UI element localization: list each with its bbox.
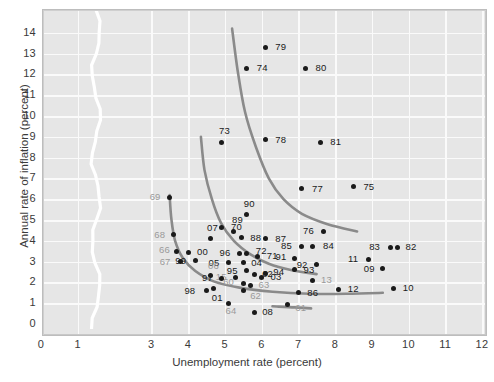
data-point-label: 62 bbox=[250, 291, 261, 301]
data-point-label: 68 bbox=[154, 230, 165, 240]
data-point-label: 73 bbox=[219, 126, 230, 136]
data-point-label: 77 bbox=[312, 184, 323, 194]
data-point bbox=[252, 310, 257, 315]
data-point-label: 09 bbox=[364, 264, 375, 274]
data-point-label: 00 bbox=[197, 247, 208, 257]
data-point bbox=[395, 245, 400, 250]
data-point-label: 12 bbox=[348, 284, 359, 294]
data-point-label: 69 bbox=[150, 192, 161, 202]
data-point-label: 97 bbox=[202, 273, 213, 283]
data-point-label: 88 bbox=[250, 233, 261, 243]
data-point-label: 82 bbox=[405, 242, 416, 252]
x-axis-title: Unemployment rate (percent) bbox=[0, 356, 494, 368]
data-point-label: 66 bbox=[159, 245, 170, 255]
data-point-label: 84 bbox=[323, 241, 334, 251]
x-tick-label: 10 bbox=[397, 338, 421, 350]
data-point-label: 81 bbox=[330, 137, 341, 147]
data-point bbox=[248, 283, 253, 288]
data-point-label: 01 bbox=[212, 293, 223, 303]
data-point bbox=[241, 260, 246, 265]
data-point bbox=[303, 66, 308, 71]
x-tick-label: 5 bbox=[213, 338, 237, 350]
data-point-label: 04 bbox=[251, 258, 262, 268]
data-point-label: 63 bbox=[258, 280, 269, 290]
x-tick-label: 8 bbox=[323, 338, 347, 350]
data-point bbox=[263, 45, 268, 50]
data-point bbox=[252, 272, 257, 277]
data-point-label: 96 bbox=[219, 248, 230, 258]
data-point-label: 76 bbox=[303, 226, 314, 236]
x-tick-label: 4 bbox=[176, 338, 200, 350]
x-tick-label: 1 bbox=[66, 338, 90, 350]
x-tick-label: 11 bbox=[433, 338, 457, 350]
data-point-label: 80 bbox=[316, 63, 327, 73]
data-point bbox=[318, 140, 323, 145]
data-point-label: 11 bbox=[348, 254, 358, 264]
x-tick-label: 3 bbox=[139, 338, 163, 350]
data-point-label: 90 bbox=[244, 199, 255, 209]
data-point-label: 67 bbox=[160, 257, 171, 267]
data-point-label: 79 bbox=[275, 42, 286, 52]
data-point bbox=[366, 257, 371, 262]
data-point bbox=[285, 302, 290, 307]
data-point-label: 03 bbox=[271, 272, 282, 282]
phillips-curve-chart: 7974807378817775699070766807898887858483… bbox=[0, 0, 494, 382]
data-point-label: 07 bbox=[207, 223, 218, 233]
data-point-label: 60 bbox=[223, 277, 234, 287]
x-tick-label: 7 bbox=[286, 338, 310, 350]
data-point-label: 85 bbox=[281, 241, 292, 251]
data-point bbox=[263, 271, 268, 276]
x-tick-label: 9 bbox=[360, 338, 384, 350]
plot-area: 7974807378817775699070766807898887858483… bbox=[43, 10, 486, 335]
data-point-label: 06 bbox=[208, 261, 219, 271]
data-point bbox=[244, 66, 249, 71]
data-point bbox=[239, 235, 244, 240]
data-point-label: 91 bbox=[276, 252, 287, 262]
data-point-label: 64 bbox=[225, 306, 236, 316]
data-point-label: 74 bbox=[257, 63, 268, 73]
data-point bbox=[171, 232, 176, 237]
data-point bbox=[219, 225, 224, 230]
y-tick-label: 0 bbox=[14, 317, 36, 329]
data-point bbox=[388, 245, 393, 250]
data-point bbox=[167, 195, 172, 200]
y-tick-label: 2 bbox=[14, 275, 36, 287]
x-tick-label: 6 bbox=[250, 338, 274, 350]
data-point bbox=[208, 236, 213, 241]
data-point-label: 89 bbox=[232, 215, 243, 225]
data-point-label: 10 bbox=[403, 283, 414, 293]
data-point bbox=[193, 258, 198, 263]
data-point bbox=[241, 288, 246, 293]
y-axis-title: Annual rate of inflation (percent) bbox=[18, 56, 30, 276]
data-point bbox=[263, 236, 268, 241]
data-point-label: 75 bbox=[363, 182, 374, 192]
y-tick-label: 1 bbox=[14, 296, 36, 308]
y-tick-label: 14 bbox=[14, 26, 36, 38]
data-point bbox=[241, 281, 246, 286]
data-point bbox=[219, 140, 224, 145]
data-point bbox=[186, 250, 191, 255]
data-point-label: 61 bbox=[295, 303, 306, 313]
data-point-label: 13 bbox=[321, 275, 332, 285]
data-point-label: 83 bbox=[369, 242, 380, 252]
data-point-label: 86 bbox=[307, 288, 318, 298]
data-point-label: 98 bbox=[184, 286, 195, 296]
data-point-label: 08 bbox=[262, 307, 273, 317]
x-tick-label: 0 bbox=[29, 338, 53, 350]
data-point bbox=[237, 251, 242, 256]
data-point-label: 78 bbox=[275, 135, 286, 145]
data-point-label: 95 bbox=[227, 266, 238, 276]
x-tick-label: 12 bbox=[470, 338, 494, 350]
data-point-label: 93 bbox=[304, 265, 315, 275]
